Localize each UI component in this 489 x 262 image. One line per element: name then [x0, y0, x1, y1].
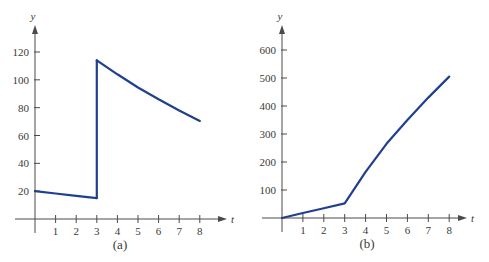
curve-segment-after-jump [97, 60, 200, 121]
y-tick-label: 40 [18, 157, 30, 169]
y-tick-label: 80 [18, 102, 30, 114]
x-axis-arrow-icon [458, 215, 467, 221]
x-tick-label: 8 [446, 224, 452, 236]
x-tick-label: 3 [342, 224, 348, 236]
chart-b: ty12345678100200300400500600(b) [260, 10, 476, 251]
y-tick-label: 60 [18, 130, 30, 142]
y-tick-label: 200 [260, 156, 277, 168]
y-tick-label: 300 [260, 128, 277, 140]
chart-caption: (b) [359, 236, 374, 251]
x-tick-label: 5 [135, 225, 141, 237]
x-tick-label: 2 [321, 224, 327, 236]
x-tick-label: 4 [363, 224, 369, 236]
x-tick-label: 2 [73, 225, 79, 237]
y-tick-label: 100 [13, 74, 30, 86]
figure: ty1234567820406080100120(a) ty1234567810… [0, 0, 489, 262]
y-axis-label: y [277, 10, 283, 22]
x-tick-label: 6 [156, 225, 162, 237]
x-tick-label: 4 [115, 225, 121, 237]
y-tick-label: 20 [18, 185, 30, 197]
chart-caption: (a) [113, 237, 127, 252]
x-tick-label: 7 [426, 224, 432, 236]
y-tick-label: 100 [260, 184, 277, 196]
x-axis-label: t [231, 213, 235, 225]
x-tick-label: 3 [94, 225, 100, 237]
x-tick-label: 1 [300, 224, 306, 236]
x-axis-label: t [471, 212, 475, 224]
y-tick-label: 500 [260, 72, 277, 84]
y-tick-label: 600 [260, 44, 277, 56]
x-axis-arrow-icon [218, 216, 227, 222]
y-tick-label: 400 [260, 100, 277, 112]
x-tick-label: 7 [176, 225, 182, 237]
y-axis-arrow-icon [32, 25, 38, 34]
chart-a: ty1234567820406080100120(a) [13, 10, 236, 252]
curve-segment-before-jump [35, 191, 97, 198]
x-tick-label: 1 [53, 225, 59, 237]
curve-y-t- [282, 77, 449, 218]
x-tick-label: 5 [384, 224, 390, 236]
y-axis-label: y [30, 10, 36, 22]
x-tick-label: 6 [405, 224, 411, 236]
x-tick-label: 8 [197, 225, 203, 237]
y-tick-label: 120 [13, 46, 30, 58]
y-axis-arrow-icon [279, 25, 285, 34]
